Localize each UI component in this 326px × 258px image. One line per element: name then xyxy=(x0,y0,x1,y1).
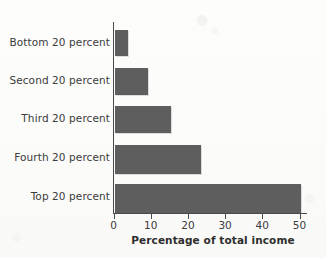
bar-fourth-20-percent xyxy=(115,145,201,174)
bar-chart: Bottom 20 percent Second 20 percent Thir… xyxy=(0,0,326,258)
y-axis-label-fourth-20-percent: Fourth 20 percent xyxy=(0,151,110,163)
chart-screenshot: Bottom 20 percent Second 20 percent Thir… xyxy=(0,0,326,258)
x-axis-tick-label-4: 40 xyxy=(247,219,277,231)
x-axis-tick-label-5: 50 xyxy=(285,219,315,231)
y-axis-line xyxy=(113,22,114,214)
x-axis-tick-label-2: 20 xyxy=(173,219,203,231)
x-axis-tick-label-1: 10 xyxy=(136,219,166,231)
x-axis-tick-label-3: 30 xyxy=(210,219,240,231)
x-axis-line xyxy=(113,213,307,214)
y-axis-label-second-20-percent: Second 20 percent xyxy=(0,74,110,86)
bar-bottom-20-percent xyxy=(115,30,128,56)
bar-top-20-percent xyxy=(115,184,301,213)
bar-second-20-percent xyxy=(115,68,148,95)
x-axis-tick-label-0: 0 xyxy=(99,219,129,231)
y-axis-label-third-20-percent: Third 20 percent xyxy=(0,112,110,124)
y-axis-label-top-20-percent: Top 20 percent xyxy=(0,190,110,202)
y-axis-label-bottom-20-percent: Bottom 20 percent xyxy=(0,36,110,48)
x-axis-title: Percentage of total income xyxy=(113,234,313,246)
bar-third-20-percent xyxy=(115,106,171,133)
